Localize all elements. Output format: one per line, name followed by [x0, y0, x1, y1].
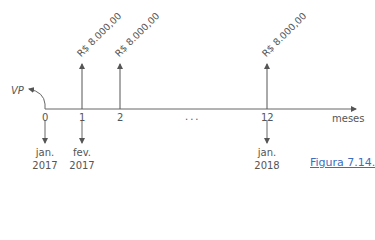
tick-label-0: 0: [42, 113, 48, 123]
axis-label: meses: [332, 114, 364, 124]
figure-caption: Figura 7.14.: [310, 156, 375, 169]
tick-label-2: 2: [117, 113, 123, 123]
ellipsis: ...: [185, 112, 201, 122]
present-value-label: VP: [11, 85, 24, 96]
tick-label-1: 1: [79, 113, 85, 123]
date-0-year: 2017: [25, 159, 65, 172]
present-value-arrow: [29, 89, 45, 104]
date-12-year: 2018: [247, 159, 287, 172]
date-0-month: jan.: [25, 146, 65, 159]
date-1: fev. 2017: [62, 146, 102, 172]
date-0: jan. 2017: [25, 146, 65, 172]
date-12: jan. 2018: [247, 146, 287, 172]
date-12-month: jan.: [247, 146, 287, 159]
date-1-month: fev.: [62, 146, 102, 159]
tick-label-12: 12: [261, 113, 274, 123]
date-1-year: 2017: [62, 159, 102, 172]
